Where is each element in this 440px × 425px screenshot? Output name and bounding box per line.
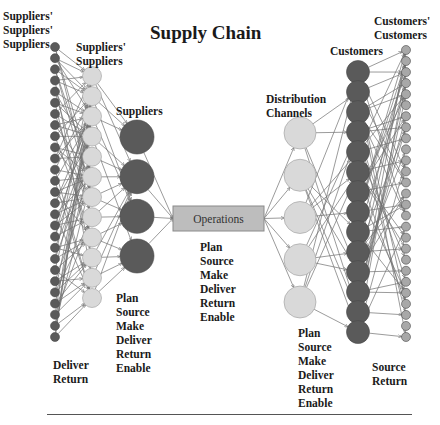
node-customers [347,61,370,84]
node-customers-customers [402,156,411,165]
node-suppliers-suppliers-suppliers [51,266,60,275]
node-customers-customers [402,145,411,154]
node-customers [347,201,370,224]
node-suppliers-suppliers-suppliers [51,232,60,241]
tier-suppliers-suppliers [83,67,102,308]
node-suppliers-suppliers [83,107,102,126]
tier-label-suppliers-suppliers: Suppliers' Suppliers [76,40,126,68]
node-suppliers-suppliers-suppliers [51,165,60,174]
node-customers-customers [402,189,411,198]
node-distribution-channels [284,117,316,149]
node-distribution-channels [284,244,316,276]
node-suppliers-suppliers-suppliers [51,87,60,96]
tier-distribution-channels [284,117,316,318]
node-customers-customers [402,277,411,286]
node-customers-customers [402,57,411,66]
node-suppliers-suppliers [83,208,102,227]
process-list-operations: Plan Source Make Deliver Return Enable [200,240,236,324]
node-customers-customers [402,178,411,187]
node-customers-customers [402,333,411,342]
node-customers [347,161,370,184]
node-distribution-channels [284,159,316,191]
node-customers-customers [402,134,411,143]
node-suppliers-suppliers [83,289,102,308]
node-customers [347,141,370,164]
node-customers [347,221,370,244]
process-list-suppliers: Plan Source Make Deliver Return Enable [116,291,152,375]
node-suppliers-suppliers-suppliers [51,288,60,297]
node-suppliers-suppliers-suppliers [51,176,60,185]
node-suppliers [120,199,154,233]
node-customers-customers [402,79,411,88]
node-suppliers-suppliers-suppliers [51,221,60,230]
node-customers-customers [402,90,411,99]
node-customers [347,241,370,264]
tier-label-suppliers-suppliers-suppliers: Suppliers' Suppliers' Suppliers [3,9,53,51]
node-customers-customers [402,288,411,297]
node-customers-customers [402,68,411,77]
node-suppliers-suppliers [83,147,102,166]
node-suppliers-suppliers-suppliers [51,321,60,330]
node-customers [347,101,370,124]
node-customers-customers [402,101,411,110]
node-customers-customers [402,222,411,231]
node-distribution-channels [284,286,316,318]
node-suppliers-suppliers-suppliers [51,154,60,163]
diagram-title: Supply Chain [150,22,261,44]
node-suppliers-suppliers-suppliers [51,243,60,252]
node-customers-customers [402,211,411,220]
node-suppliers-suppliers-suppliers [51,54,60,63]
node-customers-customers [402,233,411,242]
node-suppliers-suppliers-suppliers [51,132,60,141]
node-customers-customers [402,112,411,121]
node-suppliers-suppliers-suppliers [51,299,60,308]
node-suppliers-suppliers-suppliers [51,76,60,85]
node-suppliers-suppliers-suppliers [51,98,60,107]
node-customers-customers [402,123,411,132]
node-suppliers-suppliers [83,87,102,106]
node-customers-customers [402,266,411,275]
node-customers-customers [402,244,411,253]
node-suppliers-suppliers-suppliers [51,121,60,130]
node-customers-customers [402,167,411,176]
node-customers-customers [402,310,411,319]
node-customers [347,301,370,324]
node-customers-customers [402,299,411,308]
node-suppliers-suppliers-suppliers [51,143,60,152]
process-list-distribution-channels: Plan Source Make Deliver Return Enable [298,326,334,410]
node-suppliers [120,120,154,154]
operations-label: Operations [193,213,244,226]
node-distribution-channels [284,202,316,234]
node-customers-customers [402,321,411,330]
node-suppliers-suppliers [83,127,102,146]
process-list-leftmost-tier: Deliver Return [53,358,89,386]
tier-label-suppliers: Suppliers [116,104,163,118]
node-suppliers-suppliers-suppliers [51,254,60,263]
tier-label-distribution-channels: Distribution Channels [266,92,326,120]
node-suppliers-suppliers-suppliers [51,188,60,197]
node-customers-customers [402,200,411,209]
node-customers [347,321,370,344]
node-suppliers-suppliers-suppliers [51,210,60,219]
operations-box: Operations [173,206,264,231]
node-suppliers-suppliers [83,167,102,186]
node-customers-customers [402,46,411,55]
node-suppliers-suppliers [83,228,102,247]
node-customers [347,281,370,304]
node-suppliers-suppliers [83,268,102,287]
node-suppliers-suppliers-suppliers [51,310,60,319]
bottom-divider-line [47,414,412,415]
node-customers [347,261,370,284]
tier-label-customers: Customers [330,44,383,58]
node-customers [347,81,370,104]
node-suppliers [120,160,154,194]
node-suppliers [120,239,154,273]
node-customers-customers [402,255,411,264]
node-suppliers-suppliers-suppliers [51,333,60,342]
process-list-rightmost-tier: Source Return [372,360,407,388]
node-suppliers-suppliers-suppliers [51,199,60,208]
tier-suppliers [120,120,154,273]
node-suppliers-suppliers-suppliers [51,277,60,286]
node-suppliers-suppliers-suppliers [51,65,60,74]
node-customers [347,181,370,204]
